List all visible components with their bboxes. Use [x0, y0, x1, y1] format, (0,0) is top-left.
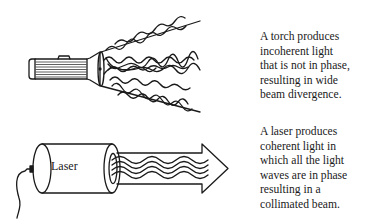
caption-line: which all the light: [260, 154, 365, 169]
laser-device-icon: [17, 144, 120, 218]
divergent-beam: [101, 17, 200, 112]
laser-label: Laser: [51, 159, 78, 174]
caption-line: A torch produces: [260, 30, 365, 45]
caption-line: beam divergence.: [260, 88, 365, 103]
collimated-beam-arrow: [112, 144, 228, 193]
caption-line: A laser produces: [260, 125, 365, 140]
caption-line: incoherent light: [260, 45, 365, 60]
caption-line: collimated beam.: [260, 198, 365, 213]
caption-line: resulting in a: [260, 183, 365, 198]
caption-line: resulting in wide: [260, 74, 365, 89]
caption-line: coherent light in: [260, 140, 365, 155]
laser-caption: A laser produces coherent light in which…: [260, 125, 365, 212]
torch-icon: [29, 52, 104, 86]
torch-caption: A torch produces incoherent light that i…: [260, 30, 365, 103]
caption-line: that is not in phase,: [260, 59, 365, 74]
caption-line: waves are in phase: [260, 169, 365, 184]
